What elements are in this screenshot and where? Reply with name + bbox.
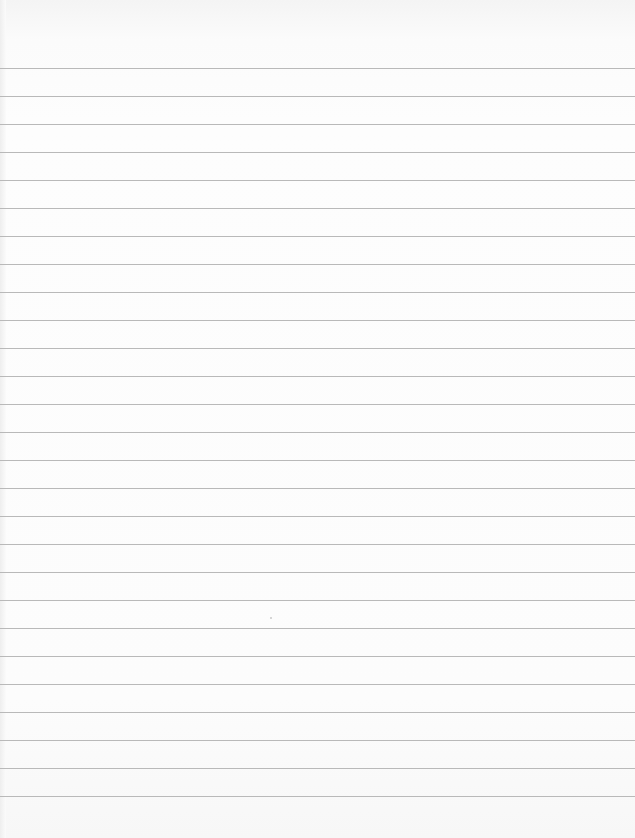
ruled-line <box>0 628 635 629</box>
ruled-line <box>0 684 635 685</box>
ruled-line <box>0 404 635 405</box>
ruled-line <box>0 68 635 69</box>
ruled-line <box>0 488 635 489</box>
ruled-line <box>0 768 635 769</box>
lined-paper <box>0 0 635 838</box>
ruled-line <box>0 376 635 377</box>
ruled-line <box>0 208 635 209</box>
ruled-line <box>0 600 635 601</box>
ruled-line <box>0 544 635 545</box>
paper-speck <box>270 617 272 619</box>
ruled-line <box>0 572 635 573</box>
ruled-line <box>0 740 635 741</box>
ruled-line <box>0 124 635 125</box>
ruled-line <box>0 348 635 349</box>
ruled-line <box>0 796 635 797</box>
ruled-line <box>0 236 635 237</box>
ruled-line <box>0 264 635 265</box>
ruled-line <box>0 152 635 153</box>
ruled-line <box>0 656 635 657</box>
ruled-line <box>0 712 635 713</box>
ruled-line <box>0 180 635 181</box>
ruled-line <box>0 460 635 461</box>
ruled-line <box>0 320 635 321</box>
ruled-line <box>0 292 635 293</box>
ruled-line <box>0 96 635 97</box>
ruled-line <box>0 516 635 517</box>
ruled-line <box>0 432 635 433</box>
